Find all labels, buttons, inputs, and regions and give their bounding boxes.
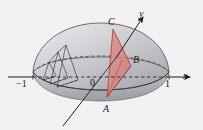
point-label-B: B bbox=[133, 55, 139, 65]
point-label-C: C bbox=[108, 17, 115, 27]
point-label-A: A bbox=[103, 104, 109, 114]
geometry-diagram bbox=[0, 0, 203, 130]
x-axis-label-neg-one: −1 bbox=[16, 79, 27, 89]
x-axis-label-pos-one: 1 bbox=[165, 79, 170, 89]
y-axis-label: y bbox=[139, 9, 143, 19]
origin-label: 0 bbox=[90, 78, 95, 88]
x-axis-label: x bbox=[183, 71, 187, 81]
figure-container: −1 1 0 x y C B A bbox=[0, 0, 203, 130]
